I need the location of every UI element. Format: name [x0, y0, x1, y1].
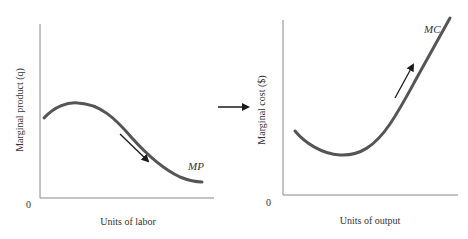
mp-chart: MP 0 Units of labor Marginal product (q) — [14, 24, 214, 227]
x-axis-label: Units of output — [340, 215, 401, 226]
origin-label: 0 — [26, 199, 31, 210]
mp-curve — [44, 103, 202, 182]
mp-label: MP — [187, 160, 204, 172]
x-axis-label: Units of labor — [100, 216, 156, 227]
figure: MP 0 Units of labor Marginal product (q)… — [0, 0, 468, 239]
mc-label: MC — [423, 23, 441, 35]
origin-label: 0 — [266, 197, 271, 208]
y-axis-label: Marginal product (q) — [14, 68, 26, 152]
up-arrow-icon — [395, 65, 413, 98]
mc-chart: MC 0 Units of output Marginal cost ($) — [256, 18, 458, 226]
y-axis-label: Marginal cost ($) — [256, 75, 268, 144]
mc-curve — [295, 18, 450, 155]
